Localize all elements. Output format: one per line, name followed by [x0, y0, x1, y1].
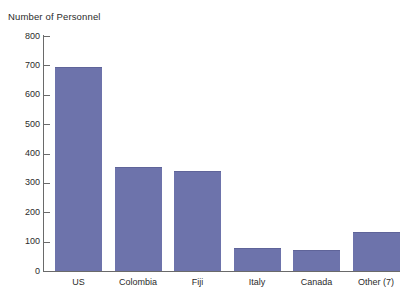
- bar-slot: [234, 36, 281, 271]
- bar-slot: [293, 36, 340, 271]
- y-axis-label-200: 200: [4, 208, 40, 217]
- y-axis-label-100: 100: [4, 237, 40, 246]
- x-axis-label-other-7: Other (7): [341, 277, 409, 288]
- x-axis-line: [43, 271, 400, 272]
- bar-us[interactable]: [55, 67, 102, 271]
- bar-canada[interactable]: [293, 250, 340, 271]
- y-axis-label-300: 300: [4, 178, 40, 187]
- bar-colombia[interactable]: [115, 167, 162, 271]
- y-axis-label-800: 800: [4, 32, 40, 41]
- y-axis-label-600: 600: [4, 90, 40, 99]
- y-tick-0: [44, 271, 50, 272]
- y-axis-label-400: 400: [4, 149, 40, 158]
- y-axis-label-700: 700: [4, 61, 40, 70]
- y-axis-label-0: 0: [4, 267, 40, 276]
- bar-slot: [115, 36, 162, 271]
- y-axis-tick-labels: 8007006005004003002001000: [0, 0, 40, 306]
- bar-slot: [174, 36, 221, 271]
- bar-chart: Number of Personnel 80070060050040030020…: [0, 0, 409, 306]
- bar-slot: [353, 36, 400, 271]
- bar-slot: [55, 36, 102, 271]
- plot-area: [44, 36, 400, 271]
- bar-fiji[interactable]: [174, 171, 221, 271]
- bar-italy[interactable]: [234, 248, 281, 272]
- x-axis-category-labels: USColombiaFijiItalyCanadaOther (7): [44, 277, 400, 293]
- y-axis-label-500: 500: [4, 120, 40, 129]
- bar-other-7[interactable]: [353, 232, 400, 271]
